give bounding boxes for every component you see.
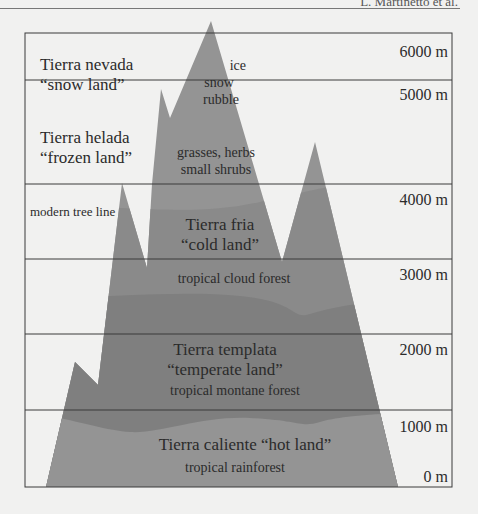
vegetation-label: modern tree line — [30, 204, 115, 219]
vegetation-label: tropical montane forest — [170, 383, 300, 398]
altitude-label: 1000 m — [400, 418, 449, 435]
zone-name: Tierra caliente “hot land” — [159, 435, 332, 454]
vegetation-label: ice — [230, 58, 246, 73]
zone-name: Tierra templata — [173, 340, 277, 359]
zone-gloss: “temperate land” — [167, 360, 283, 379]
zone-gloss: “cold land” — [181, 235, 259, 254]
zone-name: Tierra nevada — [40, 55, 134, 74]
zone-gloss: “snow land” — [40, 75, 125, 94]
vegetation-label: tropical rainforest — [185, 460, 285, 475]
altitude-label: 2000 m — [400, 341, 449, 358]
zone-gloss: “frozen land” — [40, 148, 132, 167]
altitude-label: 0 m — [424, 468, 449, 485]
vegetation-label: grasses, herbs — [177, 145, 255, 160]
altitude-label: 5000 m — [400, 86, 449, 103]
zone-name: Tierra fria — [186, 215, 255, 234]
vegetation-label: rubble — [203, 92, 239, 107]
altitudinal-zonation-diagram: 6000 m5000 m4000 m3000 m2000 m1000 m0 m … — [0, 0, 478, 514]
altitude-label: 6000 m — [400, 43, 449, 60]
altitude-label: 4000 m — [400, 191, 449, 208]
vegetation-label: snow — [204, 75, 234, 90]
vegetation-label: small shrubs — [181, 162, 251, 177]
altitude-axis-labels: 6000 m5000 m4000 m3000 m2000 m1000 m0 m — [400, 43, 449, 485]
zone-name: Tierra helada — [40, 128, 130, 147]
altitude-label: 3000 m — [400, 266, 449, 283]
vegetation-label: tropical cloud forest — [178, 271, 291, 286]
